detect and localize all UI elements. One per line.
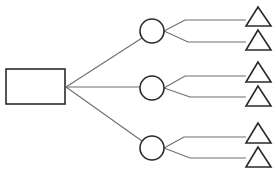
chance-node-circle-3: [140, 136, 164, 160]
chance-to-end-edge-1-1: [164, 20, 246, 31]
end-node-triangle-3-2: [246, 147, 271, 167]
chance-to-end-edge-2-2: [164, 88, 246, 97]
end-node-triangle-3-1: [246, 123, 271, 143]
chance-to-end-edge-2-1: [164, 76, 246, 88]
root-decision-rectangle: [6, 69, 65, 104]
root-node-layer: [6, 69, 65, 104]
chance-to-end-edge-1-2: [164, 31, 246, 42]
end-node-triangle-1-1: [246, 7, 271, 26]
end-node-layer: [246, 7, 271, 167]
chance-node-circle-1: [140, 19, 164, 43]
chance-node-layer: [140, 19, 164, 160]
end-node-triangle-2-2: [246, 86, 271, 106]
chance-to-end-edge-3-2: [164, 148, 246, 158]
chance-to-end-edge-3-1: [164, 137, 246, 148]
chance-node-circle-2: [140, 76, 164, 100]
root-to-chance-edge-3: [66, 87, 142, 141]
end-node-triangle-2-1: [246, 62, 271, 82]
root-to-chance-edge-1: [66, 38, 142, 87]
decision-tree-diagram: [0, 0, 278, 178]
end-node-triangle-1-2: [246, 30, 271, 50]
